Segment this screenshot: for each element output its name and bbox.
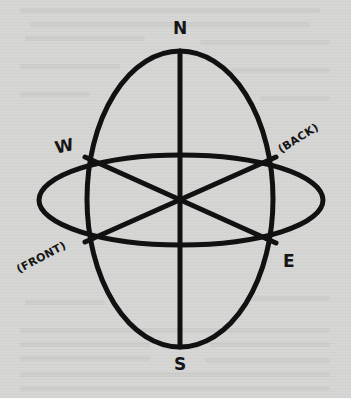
east-label: E <box>283 253 295 270</box>
west-label: W <box>53 136 75 157</box>
south-label: S <box>174 356 186 373</box>
orientation-diagram <box>0 0 351 398</box>
north-label: N <box>173 20 187 37</box>
